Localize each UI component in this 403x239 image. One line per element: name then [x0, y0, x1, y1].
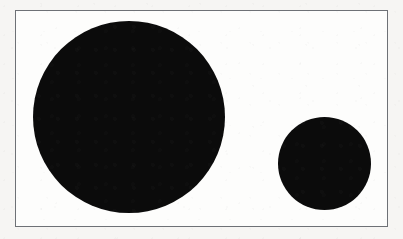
figure-border: Large circle Small circle	[15, 10, 388, 227]
figure-canvas: Large circle Small circle	[0, 0, 403, 239]
large-circle: Large circle	[33, 21, 225, 213]
small-circle-label: Small circle	[278, 117, 279, 118]
small-circle: Small circle	[278, 117, 371, 210]
large-circle-label: Large circle	[33, 21, 34, 22]
